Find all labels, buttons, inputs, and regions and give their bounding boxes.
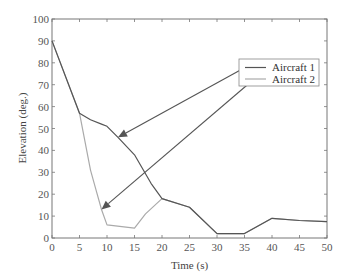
x-tick-label: 30 bbox=[212, 241, 224, 253]
legend: Aircraft 1 Aircraft 2 bbox=[239, 59, 319, 86]
plot-area bbox=[52, 19, 327, 238]
x-tick-label: 5 bbox=[77, 241, 83, 253]
x-tick-label: 20 bbox=[157, 241, 169, 253]
y-tick-label: 70 bbox=[38, 79, 50, 91]
x-tick-label: 45 bbox=[294, 241, 306, 253]
legend-label-aircraft-1: Aircraft 1 bbox=[272, 61, 315, 73]
y-tick-label: 40 bbox=[38, 144, 50, 156]
y-tick-label: 0 bbox=[44, 232, 50, 244]
x-axis-label: Time (s) bbox=[171, 259, 209, 272]
y-tick-label: 100 bbox=[33, 13, 50, 25]
y-tick-label: 80 bbox=[38, 57, 50, 69]
y-tick-label: 60 bbox=[38, 101, 50, 113]
x-tick-label: 15 bbox=[129, 241, 141, 253]
y-tick-label: 90 bbox=[38, 35, 50, 47]
y-tick-label: 10 bbox=[38, 210, 50, 222]
y-tick-label: 30 bbox=[38, 166, 50, 178]
legend-label-aircraft-2: Aircraft 2 bbox=[272, 73, 315, 85]
y-axis-label: Elevation (deg.) bbox=[16, 92, 29, 163]
x-tick-label: 25 bbox=[184, 241, 196, 253]
y-tick-label: 50 bbox=[38, 123, 50, 135]
elevation-chart: 05101520253035404550 0102030405060708090… bbox=[0, 0, 350, 280]
x-tick-label: 0 bbox=[49, 241, 55, 253]
x-tick-label: 35 bbox=[239, 241, 251, 253]
y-tick-label: 20 bbox=[38, 188, 50, 200]
x-tick-label: 50 bbox=[322, 241, 334, 253]
x-tick-label: 40 bbox=[267, 241, 279, 253]
x-tick-label: 10 bbox=[102, 241, 114, 253]
